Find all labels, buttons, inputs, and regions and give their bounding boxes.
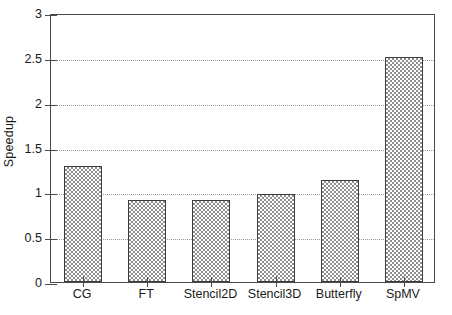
bar [128,200,166,282]
y-axis-tick-inner [51,60,57,61]
x-axis-tick-inner [83,277,84,282]
y-axis-tick-inner [51,15,57,16]
y-axis-tick-inner [51,150,57,151]
x-axis-tick-inner [147,277,148,282]
bar [257,194,295,282]
y-axis-tick-inner [51,105,57,106]
x-axis-tick-inner [276,277,277,282]
y-axis-tick-label: 0.5 [2,232,42,245]
plot-area [50,14,435,283]
x-axis-tick-inner [404,277,405,282]
x-axis-tick-inner [211,277,212,282]
gridline [51,150,434,151]
y-axis-tick-label: 2 [2,98,42,111]
y-axis-tick-label: 3 [2,8,42,21]
gridline [51,194,434,195]
gridline [51,105,434,106]
bar [192,200,230,282]
y-axis-tick-inner [51,239,57,240]
speedup-bar-chart: Speedup 00.511.522.53 CGFTStencil2DStenc… [0,0,452,315]
gridline [51,60,434,61]
y-axis-tick-label: 1.5 [2,143,42,156]
y-axis-tick-label: 2.5 [2,53,42,66]
gridline [51,239,434,240]
y-axis-tick-inner [51,194,57,195]
y-axis-tick-label: 0 [2,277,42,290]
bar [321,180,359,282]
bar [385,57,423,282]
x-axis-tick-inner [340,277,341,282]
x-axis-tick-label: SpMV [358,288,448,301]
y-axis-tick-label: 1 [2,187,42,200]
y-axis-tick-inner [51,284,57,285]
bar [64,166,102,282]
